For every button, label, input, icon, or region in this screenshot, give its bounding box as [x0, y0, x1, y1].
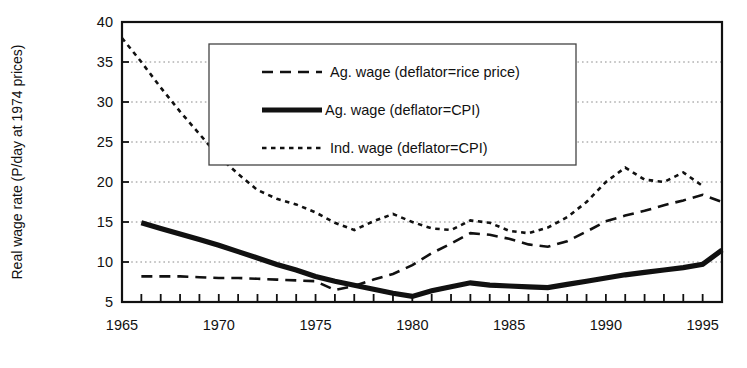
x-tick-label-1980: 1980 [396, 317, 428, 333]
y-tick-label-15: 15 [97, 214, 113, 230]
wage-line-chart: 403530252015105 196519701975198019851990… [0, 0, 747, 368]
x-tick-label-1965: 1965 [106, 317, 138, 333]
x-tick-label-1995: 1995 [687, 317, 719, 333]
x-tick-label-1975: 1975 [299, 317, 331, 333]
chart-legend: Ag. wage (deflator=rice price)Ag. wage (… [209, 44, 576, 165]
y-axis-title: Real wage rate (P/day at 1974 prices) [9, 44, 25, 279]
y-tick-label-35: 35 [97, 54, 113, 70]
y-tick-label-40: 40 [97, 14, 113, 30]
legend-label-1: Ag. wage (deflator=CPI) [325, 102, 480, 118]
y-tick-label-30: 30 [97, 94, 113, 110]
y-tick-label-25: 25 [97, 134, 113, 150]
x-tick-label-1970: 1970 [203, 317, 235, 333]
legend-label-0: Ag. wage (deflator=rice price) [330, 64, 520, 80]
x-tick-label-1985: 1985 [493, 317, 525, 333]
y-tick-label-10: 10 [97, 254, 113, 270]
x-tick-label-1990: 1990 [590, 317, 622, 333]
y-tick-label-20: 20 [97, 174, 113, 190]
legend-label-2: Ind. wage (deflator=CPI) [330, 140, 488, 156]
chart-figure: 403530252015105 196519701975198019851990… [0, 0, 747, 368]
y-tick-label-5: 5 [105, 294, 113, 310]
